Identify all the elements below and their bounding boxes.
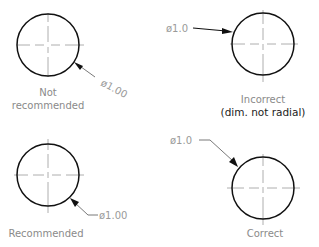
panel-bottom-right: ø1.0 Correct <box>170 135 300 239</box>
caption-line-1: Not <box>39 87 57 98</box>
dimension-text: ø1.00 <box>99 77 129 100</box>
arrowhead-icon <box>74 62 83 70</box>
leader-line <box>193 28 226 31</box>
dimension-text: ø1.0 <box>170 135 192 146</box>
caption-line-1: Incorrect <box>241 94 285 105</box>
panel-top-right: ø1.0 Incorrect (dim. not radial) <box>166 10 305 118</box>
dimension-text: ø1.0 <box>166 23 188 34</box>
arrowhead-icon <box>222 28 233 34</box>
caption-line-2: (dim. not radial) <box>221 106 306 118</box>
diagram-canvas: ø1.00 Not recommended ø1.0 Incorrect (di… <box>0 0 319 247</box>
caption-line-1: Recommended <box>8 228 83 239</box>
caption-line-1: Correct <box>247 228 284 239</box>
leader-line <box>74 202 98 215</box>
caption-line-2: recommended <box>12 100 84 111</box>
panel-top-left: ø1.00 Not recommended <box>12 13 130 111</box>
leader-line <box>199 140 233 161</box>
panel-bottom-left: ø1.00 Recommended <box>8 139 127 239</box>
dimension-text: ø1.00 <box>99 210 127 221</box>
